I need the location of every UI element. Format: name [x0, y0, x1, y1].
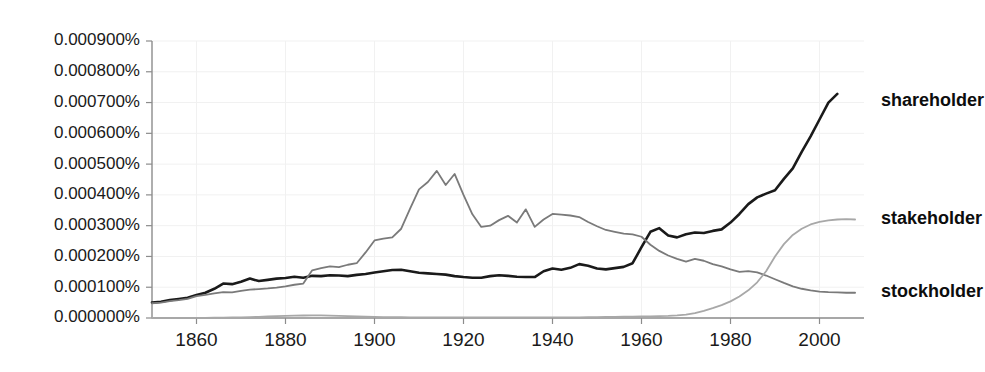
ngram-chart-figure: 0.000900%0.000800%0.000700%0.000600%0.00…: [0, 0, 985, 372]
y-axis-tick-label: 0.000000%: [54, 307, 140, 326]
y-axis-tick-label: 0.000900%: [54, 30, 140, 49]
x-axis-tick-label: 1920: [442, 329, 484, 350]
y-axis-tick-labels: 0.000900%0.000800%0.000700%0.000600%0.00…: [54, 30, 140, 326]
y-axis-tick-label: 0.000200%: [54, 246, 140, 265]
y-axis-tick-label: 0.000700%: [54, 92, 140, 111]
y-axis-tick-label: 0.000100%: [54, 277, 140, 296]
data-series: [152, 94, 855, 318]
chart-canvas: 0.000900%0.000800%0.000700%0.000600%0.00…: [0, 0, 985, 372]
y-axis-tick-label: 0.000300%: [54, 215, 140, 234]
y-axis-tick-label: 0.000400%: [54, 184, 140, 203]
series-label-stockholder: stockholder: [881, 281, 983, 301]
x-axis-tick-label: 1880: [264, 329, 306, 350]
series-line-stockholder: [152, 171, 855, 303]
x-axis-tick-label: 1980: [709, 329, 751, 350]
y-axis-tick-label: 0.000600%: [54, 123, 140, 142]
series-inline-labels: shareholderstockholderstakeholder: [881, 90, 984, 301]
series-label-shareholder: shareholder: [881, 90, 984, 110]
series-label-stakeholder: stakeholder: [881, 208, 982, 228]
x-axis-tick-label: 2000: [798, 329, 840, 350]
y-axis-tick-label: 0.000500%: [54, 154, 140, 173]
x-axis-tick-labels: 18601880190019201940196019802000: [175, 329, 840, 350]
x-axis-tick-label: 1940: [531, 329, 573, 350]
y-axis-tick-label: 0.000800%: [54, 61, 140, 80]
x-axis-tick-marks: [197, 318, 820, 324]
x-axis-tick-label: 1860: [175, 329, 217, 350]
y-axis-tick-marks: [146, 41, 152, 318]
series-line-stakeholder: [152, 219, 855, 318]
x-axis-tick-label: 1900: [353, 329, 395, 350]
x-axis-tick-label: 1960: [620, 329, 662, 350]
